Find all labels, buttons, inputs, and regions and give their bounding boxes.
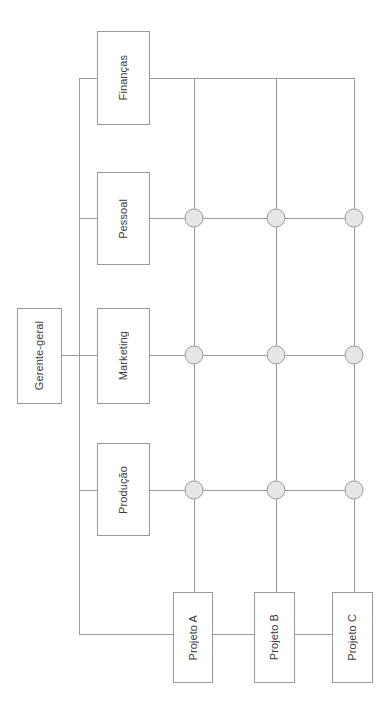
box-label-department-pessoal: Pessoal (118, 199, 129, 239)
node-producao-projeto-c[interactable] (345, 481, 363, 499)
intersection-nodes (185, 209, 363, 499)
box-department-marketing[interactable]: Marketing (97, 308, 150, 404)
box-label-project-projeto-b: Projeto B (269, 614, 280, 660)
box-label-gerente-geral: Gerente-geral (34, 321, 45, 390)
box-gerente-geral[interactable]: Gerente-geral (17, 308, 62, 404)
node-pessoal-projeto-b[interactable] (267, 209, 285, 227)
box-department-producao[interactable]: Produção (97, 443, 150, 536)
node-marketing-projeto-c[interactable] (345, 346, 363, 364)
box-label-project-projeto-a: Projeto A (188, 615, 199, 661)
node-pessoal-projeto-a[interactable] (185, 209, 203, 227)
matrix-org-chart: Gerente-geralFinançasPessoalMarketingPro… (0, 0, 391, 703)
node-pessoal-projeto-c[interactable] (345, 209, 363, 227)
box-label-department-marketing: Marketing (118, 331, 129, 380)
node-producao-projeto-b[interactable] (267, 481, 285, 499)
box-department-financas[interactable]: Finanças (97, 31, 150, 125)
box-project-projeto-a[interactable]: Projeto A (173, 592, 213, 683)
box-project-projeto-b[interactable]: Projeto B (254, 592, 295, 683)
box-label-project-projeto-c: Projeto C (347, 614, 358, 661)
box-label-department-financas: Finanças (118, 55, 129, 100)
node-marketing-projeto-b[interactable] (267, 346, 285, 364)
box-department-pessoal[interactable]: Pessoal (97, 172, 150, 265)
box-label-department-producao: Produção (118, 466, 129, 514)
node-producao-projeto-a[interactable] (185, 481, 203, 499)
node-marketing-projeto-a[interactable] (185, 346, 203, 364)
box-project-projeto-c[interactable]: Projeto C (332, 592, 373, 683)
